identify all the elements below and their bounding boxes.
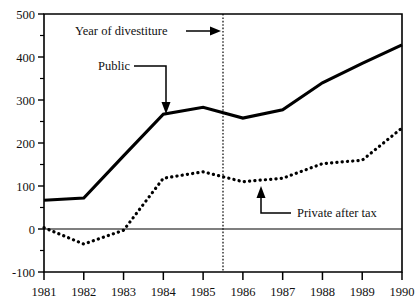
x-axis-tick-label: 1987 (270, 285, 295, 299)
y-axis-tick-label: 400 (16, 51, 35, 65)
x-axis-tick-label: 1982 (71, 285, 96, 299)
chart-background (0, 0, 416, 305)
annotation-private-after-tax-label: Private after tax (297, 206, 378, 220)
chart-container: 5004003002001000-100 1981198219831984198… (0, 0, 416, 305)
x-axis-tick-label: 1989 (350, 285, 375, 299)
x-axis-tick-label: 1984 (151, 285, 177, 299)
y-axis-tick-label: 0 (29, 223, 35, 237)
x-axis-tick-label: 1981 (32, 285, 57, 299)
x-axis-tick-label: 1983 (111, 285, 136, 299)
x-axis-tick-label: 1985 (191, 285, 216, 299)
y-axis-tick-label: 300 (16, 94, 35, 108)
annotation-year-of-divestiture-label: Year of divestiture (75, 24, 168, 38)
y-axis-tick-label: -100 (12, 266, 35, 280)
y-axis-tick-label: 200 (16, 137, 35, 151)
x-axis-tick-label: 1990 (390, 285, 415, 299)
x-axis-tick-label: 1986 (230, 285, 255, 299)
y-axis-tick-label: 500 (16, 8, 35, 22)
y-axis-tick-label: 100 (16, 180, 35, 194)
line-chart: 5004003002001000-100 1981198219831984198… (0, 0, 416, 305)
annotation-public-label: Public (98, 59, 130, 73)
x-axis-tick-label: 1988 (310, 285, 335, 299)
